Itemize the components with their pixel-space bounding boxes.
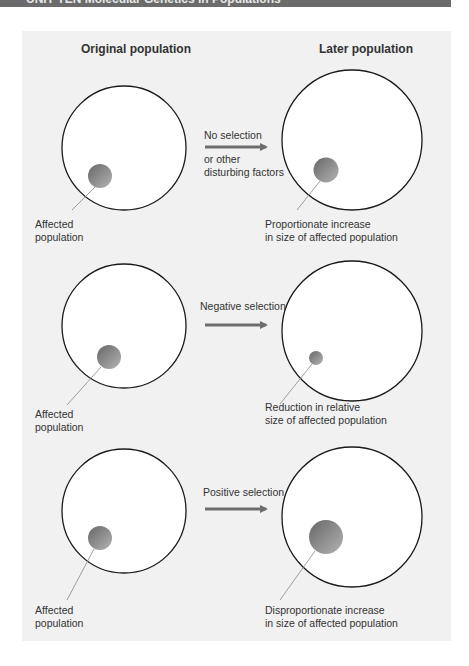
selection-diagram [0, 0, 469, 666]
outcome-label: in size of affected population [265, 231, 398, 244]
affected-label: population [35, 421, 83, 434]
later-population-circle [282, 261, 422, 401]
original-population-circle [62, 264, 186, 388]
column-title-later: Later population [319, 42, 413, 56]
column-title-original: Original population [81, 42, 191, 56]
affected-label: population [35, 231, 83, 244]
leader-line [67, 549, 94, 600]
arrow-label: Negative selection [200, 300, 286, 313]
affected-label: Affected [35, 218, 73, 231]
affected-population-dot [97, 345, 121, 369]
outcome-label: Proportionate increase [265, 218, 371, 231]
outcome-label: size of affected population [265, 414, 387, 427]
row-negative-selection [62, 261, 422, 405]
original-population-circle [62, 449, 186, 573]
original-population-circle [62, 86, 186, 210]
later-population-circle [282, 70, 422, 210]
outcome-label: Reduction in relative [265, 401, 360, 414]
outcome-label: in size of affected population [265, 617, 398, 630]
affected-population-dot [309, 520, 343, 554]
row-positive-selection [62, 447, 422, 600]
arrow-label: Positive selection [203, 486, 284, 499]
affected-label: Affected [35, 604, 73, 617]
affected-label: Affected [35, 408, 73, 421]
affected-population-dot [88, 164, 112, 188]
arrow-sublabel: disturbing factors [204, 166, 284, 179]
affected-population-dot [309, 351, 323, 365]
affected-population-dot [314, 158, 339, 183]
affected-population-dot [88, 526, 112, 550]
arrow-sublabel: or other [204, 153, 240, 166]
affected-label: population [35, 617, 83, 630]
later-population-circle [282, 447, 422, 587]
arrow-label: No selection [204, 129, 262, 142]
outcome-label: Disproportionate increase [265, 604, 385, 617]
